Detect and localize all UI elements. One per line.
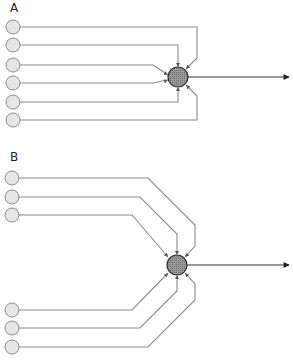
neural-convergence-diagram: A B (0, 0, 293, 364)
input-node (6, 76, 20, 90)
input-wire (20, 27, 197, 69)
panel-b-input-nodes (5, 171, 19, 354)
input-wire (19, 197, 177, 254)
input-node (6, 113, 20, 127)
input-node (5, 171, 19, 185)
input-wire (19, 215, 168, 257)
input-wire (20, 45, 178, 66)
input-node (5, 340, 19, 354)
panel-b: B (5, 150, 289, 354)
input-node (6, 95, 20, 109)
input-wire (20, 80, 167, 83)
input-node (6, 20, 20, 34)
input-wire (20, 65, 167, 74)
panel-a-hub-node (168, 67, 188, 87)
input-node (5, 303, 19, 317)
panel-a-input-nodes (6, 20, 20, 127)
arrowhead-icon (175, 275, 179, 279)
arrowhead-icon (176, 87, 180, 91)
panel-b-label: B (10, 150, 18, 164)
panel-a-label: A (10, 1, 19, 15)
input-wire (20, 88, 178, 102)
arrowhead-icon (175, 251, 179, 255)
input-node (6, 38, 20, 52)
input-wire (19, 276, 177, 328)
input-wire (19, 273, 168, 310)
input-node (6, 58, 20, 72)
arrowhead-icon (176, 63, 180, 67)
input-node (5, 190, 19, 204)
input-wire (19, 178, 195, 257)
panel-b-hub-node (167, 255, 187, 275)
input-node (5, 208, 19, 222)
input-node (5, 321, 19, 335)
panel-a: A (6, 1, 289, 127)
